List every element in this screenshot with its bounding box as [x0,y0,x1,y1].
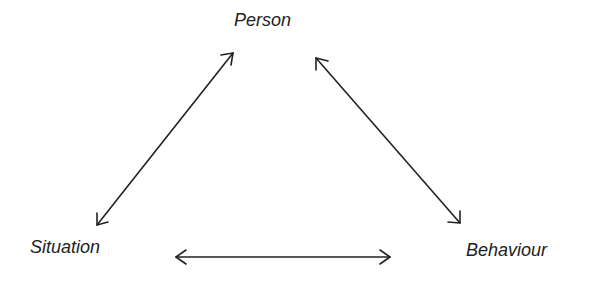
arrows [0,0,593,281]
edge-person-situation-arrow-icon [97,53,233,225]
triadic-reciprocity-diagram: Person Situation Behaviour [0,0,593,281]
edge-person-behaviour-arrow-icon [316,58,460,223]
edge-situation-behaviour-arrow-icon [176,250,390,264]
